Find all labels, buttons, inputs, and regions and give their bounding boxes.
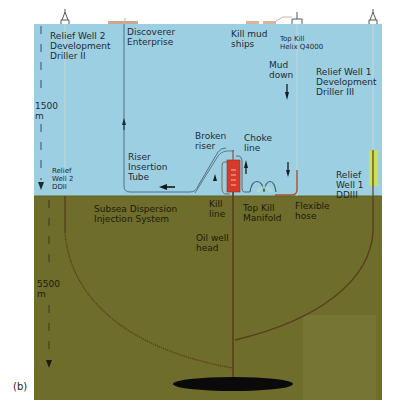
- broken-riser-label: Broken riser: [195, 131, 226, 151]
- choke-line-label: Choke line: [244, 133, 272, 153]
- well-depth-label: 5500 m: [37, 279, 60, 299]
- water-depth-label: 1500 m: [35, 101, 58, 121]
- discoverer-label: Discoverer Enterprise: [127, 27, 175, 47]
- relief-well-2-rig-icon: [61, 9, 69, 24]
- riser-insertion-tube-label: Riser Insertion Tube: [128, 152, 168, 182]
- discoverer-ship-icon: [108, 21, 138, 24]
- mud-down-label: Mud down: [269, 60, 293, 80]
- kill-mud-ships-icon: [246, 21, 276, 24]
- oil-spill-response-diagram: Relief Well 2 Development Driller II Dis…: [0, 0, 395, 409]
- relief-well-1-rig-icon: [369, 9, 377, 24]
- kill-mud-ships-label: Kill mud ships: [231, 29, 267, 49]
- top-kill-vessel-icon: [292, 12, 302, 24]
- seabed-light-patch: [303, 315, 376, 400]
- relief-well-1-short-label: Relief Well 1 DDIII: [336, 170, 364, 200]
- kill-line-label: Kill line: [209, 199, 225, 219]
- relief-well-2-label: Relief Well 2 Development Driller II: [50, 31, 111, 61]
- oil-reservoir: [173, 377, 293, 391]
- flexible-hose-label: Flexible hose: [295, 201, 330, 221]
- panel-label: (b): [13, 381, 27, 392]
- top-kill-vessel-label: Top Kill Helix Q4000: [280, 35, 323, 51]
- blowout-preventer-icon: [227, 160, 240, 192]
- oil-well-head-label: Oil well head: [196, 233, 229, 253]
- diagram-graphics: [0, 0, 395, 409]
- top-kill-manifold-label: Top Kill Manifold: [243, 203, 281, 223]
- relief-well-1-label: Relief Well 1 Development Driller III: [316, 67, 377, 97]
- subsea-dispersion-label: Subsea Dispersion Injection System: [94, 204, 177, 224]
- relief-well-2-short-label: Relief Well 2 DDII: [52, 167, 73, 191]
